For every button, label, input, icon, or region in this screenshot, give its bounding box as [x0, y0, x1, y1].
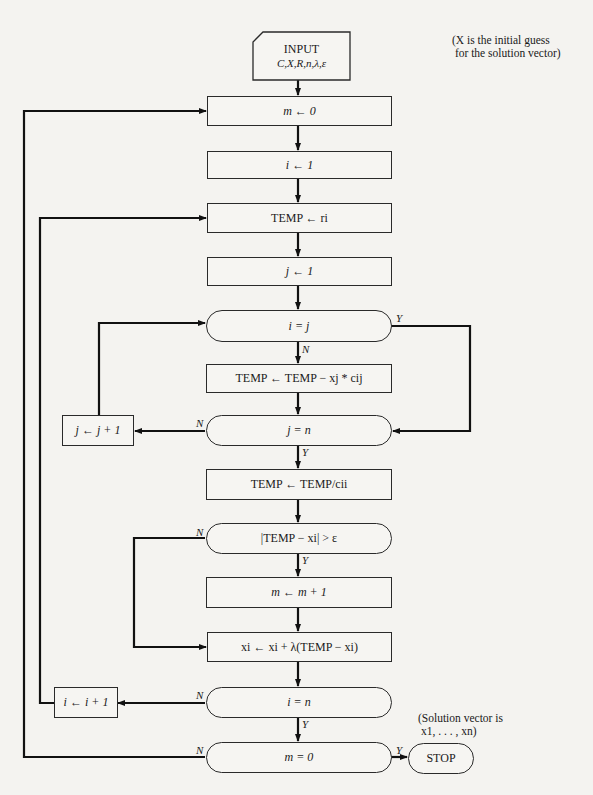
decision-m-eq-0: m = 0 — [206, 742, 392, 773]
label-converge-no: N — [196, 526, 203, 538]
j-incr-text: j ← j + 1 — [76, 423, 121, 438]
stop-text: STOP — [426, 751, 455, 766]
m-incr-text: m ← m + 1 — [271, 585, 326, 600]
temp-update-text: TEMP ← TEMP − xj * cij — [236, 371, 363, 386]
i-init-node: i ← 1 — [207, 151, 392, 179]
input-title: INPUT — [284, 42, 319, 56]
temp-init-node: TEMP ← ri — [207, 203, 392, 233]
decision-j-eq-n-text: j = n — [287, 423, 310, 438]
x-update-text: xi ← xi + λ(TEMP − xi) — [241, 640, 358, 655]
j-init-text: j ← 1 — [286, 264, 313, 279]
temp-div-text: TEMP ← TEMP/cii — [251, 477, 348, 492]
m-incr-node: m ← m + 1 — [206, 577, 392, 608]
i-incr-node: i ← i + 1 — [54, 687, 118, 718]
label-i-eq-n-no: N — [196, 689, 203, 701]
input-params: C,X,R,n,λ,ε — [277, 56, 326, 70]
m-init-text: m ← 0 — [283, 104, 316, 119]
j-init-node: j ← 1 — [207, 257, 392, 286]
label-j-eq-n-yes: Y — [302, 446, 308, 458]
label-i-eq-j-no: N — [302, 343, 309, 355]
temp-init-text: TEMP ← ri — [271, 211, 328, 226]
label-i-eq-n-yes: Y — [302, 718, 308, 730]
initial-guess-note: (X is the initial guess for the solution… — [452, 34, 561, 60]
label-j-eq-n-no: N — [196, 417, 203, 429]
decision-converge: |TEMP − xi| > ε — [206, 523, 392, 554]
temp-div-node: TEMP ← TEMP/cii — [206, 469, 392, 500]
label-converge-yes: Y — [302, 554, 308, 566]
decision-m-eq-0-text: m = 0 — [285, 750, 314, 765]
i-init-text: i ← 1 — [286, 158, 313, 173]
stop-node: STOP — [408, 743, 474, 774]
decision-i-eq-n: i = n — [206, 687, 392, 718]
decision-i-eq-j: i = j — [206, 310, 392, 342]
x-update-node: xi ← xi + λ(TEMP − xi) — [207, 632, 392, 662]
decision-j-eq-n: j = n — [206, 415, 392, 446]
label-m-eq-0-yes: Y — [396, 744, 402, 756]
solution-note: (Solution vector is x1, . . . , xn) — [418, 712, 503, 738]
input-node: INPUT C,X,R,n,λ,ε — [253, 32, 350, 80]
m-init-node: m ← 0 — [207, 96, 392, 126]
label-i-eq-j-yes: Y — [396, 312, 402, 324]
decision-i-eq-j-text: i = j — [289, 319, 310, 334]
label-m-eq-0-no: N — [196, 744, 203, 756]
decision-converge-text: |TEMP − xi| > ε — [261, 531, 337, 546]
j-incr-node: j ← j + 1 — [62, 415, 134, 446]
i-incr-text: i ← i + 1 — [64, 695, 109, 710]
temp-update-node: TEMP ← TEMP − xj * cij — [206, 364, 392, 393]
decision-i-eq-n-text: i = n — [287, 695, 310, 710]
